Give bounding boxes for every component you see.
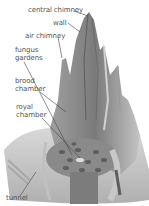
label-fungus-gardens: fungus gardens: [15, 46, 43, 62]
label-line: chamber: [16, 111, 46, 119]
label-brood-chamber: brood chamber: [15, 77, 45, 93]
label-line: brood: [15, 77, 45, 85]
label-tunnel: tunnel: [6, 194, 28, 202]
label-air-chimney: air chimney: [25, 32, 65, 40]
label-line: chamber: [15, 85, 45, 93]
label-central-chimney: central chimney: [28, 6, 83, 14]
label-wall: wall: [53, 19, 67, 27]
label-line: royal: [16, 103, 46, 111]
label-line: gardens: [15, 54, 43, 62]
termite-mound-diagram: central chimney wall air chimney fungus …: [0, 0, 149, 206]
label-line: fungus: [15, 46, 43, 54]
royal-cell: [76, 158, 84, 162]
central-shaft: [70, 172, 98, 204]
label-royal-chamber: royal chamber: [16, 103, 46, 119]
